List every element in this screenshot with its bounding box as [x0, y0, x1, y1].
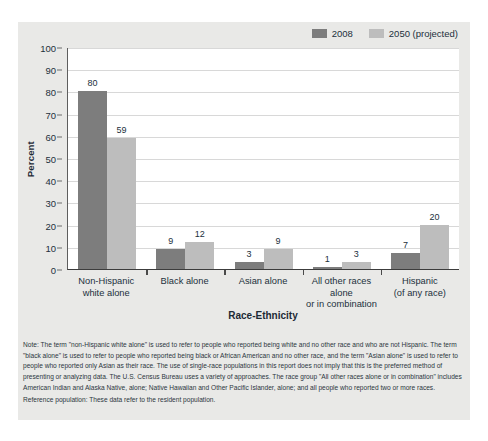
legend-swatch-2050 — [369, 29, 384, 38]
legend-swatch-2008 — [312, 29, 327, 38]
bar-group: 912 — [146, 48, 224, 269]
y-tick-mark — [57, 225, 62, 226]
y-tick-label: 10 — [45, 242, 56, 253]
bar-value-label: 3 — [235, 249, 264, 259]
bar-2008[interactable]: 3 — [235, 262, 264, 269]
bar-value-label: 7 — [391, 240, 420, 250]
bar-2008[interactable]: 9 — [156, 249, 185, 269]
y-tick-label: 30 — [45, 198, 56, 209]
x-axis-label: Black alone — [145, 276, 223, 311]
plot-wrapper: Percent 1009080706050403020100 805991239… — [18, 48, 470, 270]
bar-value-label: 80 — [78, 78, 107, 88]
x-axis-label: Asian alone — [224, 276, 302, 311]
y-tick-label: 100 — [40, 43, 56, 54]
x-tick-mark — [303, 270, 305, 275]
y-axis-ticks: 1009080706050403020100 — [36, 48, 62, 270]
y-tick-label: 80 — [45, 87, 56, 98]
y-tick-mark — [57, 70, 62, 71]
bar-group: 39 — [224, 48, 302, 269]
y-tick-mark — [57, 159, 62, 160]
bar-2050[interactable]: 20 — [420, 225, 449, 269]
x-tick-mark — [224, 270, 226, 275]
x-axis-label: Hispanic(of any race) — [381, 276, 459, 311]
bar-value-label: 9 — [156, 236, 185, 246]
x-tick-mark — [146, 270, 148, 275]
y-tick-mark — [57, 203, 62, 204]
bar-2008[interactable]: 7 — [391, 253, 420, 269]
x-axis-label: All other races aloneor in combination — [302, 276, 380, 311]
bar-2050[interactable]: 9 — [264, 249, 293, 269]
y-tick-label: 50 — [45, 154, 56, 165]
y-tick-label: 0 — [51, 265, 56, 276]
y-tick-mark — [57, 136, 62, 137]
x-tick-mark — [381, 270, 383, 275]
legend-entry-2050: 2050 (projected) — [369, 29, 458, 39]
y-tick-mark — [57, 48, 62, 49]
bar-2050[interactable]: 59 — [107, 138, 136, 269]
y-tick-mark — [57, 114, 62, 115]
note-text: Note: The term "non-Hispanic white alone… — [23, 340, 465, 393]
bar-value-label: 12 — [185, 229, 214, 239]
bar-2050[interactable]: 12 — [185, 242, 214, 269]
bar-value-label: 3 — [342, 249, 371, 259]
y-tick-label: 60 — [45, 131, 56, 142]
legend-label-2008: 2008 — [332, 29, 353, 39]
y-tick-label: 70 — [45, 109, 56, 120]
bar-2008[interactable]: 80 — [78, 91, 107, 269]
bar-value-label: 20 — [420, 212, 449, 222]
legend-label-2050: 2050 (projected) — [389, 29, 458, 39]
x-axis-title: Race-Ethnicity — [67, 310, 459, 321]
y-tick-label: 90 — [45, 65, 56, 76]
bar-group: 8059 — [68, 48, 146, 269]
y-tick-label: 40 — [45, 176, 56, 187]
x-axis-label: Non-Hispanicwhite alone — [67, 276, 145, 311]
bar-groups: 80599123913720 — [68, 48, 459, 269]
figure-panel: 2008 2050 (projected) Percent 1009080706… — [18, 22, 470, 420]
bar-2050[interactable]: 3 — [342, 262, 371, 269]
y-tick-label: 20 — [45, 220, 56, 231]
reference-text: Reference population: These data refer t… — [23, 395, 465, 406]
bar-value-label: 9 — [264, 236, 293, 246]
y-axis-title-text: Percent — [25, 141, 36, 177]
y-tick-mark — [57, 92, 62, 93]
chart-notes: Note: The term "non-Hispanic white alone… — [23, 340, 465, 406]
bar-2008[interactable]: 1 — [313, 267, 342, 269]
y-tick-mark — [57, 270, 62, 271]
bar-group: 720 — [381, 48, 459, 269]
x-axis-labels: Non-Hispanicwhite aloneBlack aloneAsian … — [67, 276, 459, 311]
bar-group: 13 — [303, 48, 381, 269]
chart-legend: 2008 2050 (projected) — [312, 29, 458, 39]
legend-entry-2008: 2008 — [312, 29, 353, 39]
plot-area: 80599123913720 — [67, 48, 459, 270]
bar-value-label: 59 — [107, 125, 136, 135]
y-tick-mark — [57, 247, 62, 248]
bar-value-label: 1 — [313, 254, 342, 264]
y-tick-mark — [57, 181, 62, 182]
